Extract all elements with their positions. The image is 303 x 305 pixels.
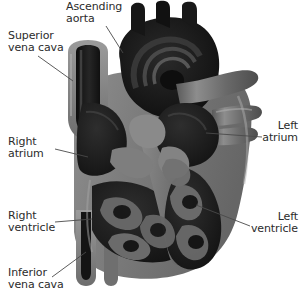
trabecular-recess-4 xyxy=(182,195,198,209)
trabecular-recess-1 xyxy=(113,205,131,219)
label-ascending-aorta-line1: Ascending xyxy=(66,0,122,13)
label-left-ventricle-line1: Left xyxy=(278,210,298,223)
label-ascending-aorta-line2: aorta xyxy=(66,12,95,25)
label-superior-vena-cava: Superior vena cava xyxy=(8,30,64,55)
label-left-ventricle: Left ventricle xyxy=(251,211,298,236)
label-right-atrium-line2: atrium xyxy=(8,147,44,160)
leader-superior-vena-cava xyxy=(38,56,73,81)
leader-ascending-aorta xyxy=(106,26,123,53)
label-left-ventricle-line2: ventricle xyxy=(251,222,298,235)
label-left-atrium-line1: Left xyxy=(278,119,298,132)
label-ascending-aorta: Ascending aorta xyxy=(66,1,122,26)
label-inferior-vena-cava-line1: Inferior xyxy=(8,266,47,279)
label-right-atrium-line1: Right xyxy=(8,135,36,148)
trabecular-recess-2 xyxy=(123,240,139,252)
trabecular-recess-3 xyxy=(150,223,166,237)
label-left-atrium: Left atrium xyxy=(262,120,298,145)
label-inferior-vena-cava-line2: vena cava xyxy=(8,278,64,291)
label-right-ventricle: Right ventricle xyxy=(8,210,55,235)
label-left-atrium-line2: atrium xyxy=(262,131,298,144)
label-right-ventricle-line2: ventricle xyxy=(8,221,55,234)
heart-anatomy-figure: Ascending aorta Superior vena cava Right… xyxy=(0,0,303,305)
label-right-ventricle-line1: Right xyxy=(8,209,36,222)
label-superior-vena-cava-line1: Superior xyxy=(8,29,54,42)
label-inferior-vena-cava: Inferior vena cava xyxy=(8,267,64,292)
label-superior-vena-cava-line2: vena cava xyxy=(8,41,64,54)
label-right-atrium: Right atrium xyxy=(8,136,44,161)
trabecular-recess-5 xyxy=(188,235,204,249)
